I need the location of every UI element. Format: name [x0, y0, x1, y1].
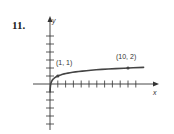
y-axis-label: y — [51, 17, 56, 25]
data-point — [126, 66, 129, 69]
point-label: (10, 2) — [116, 53, 136, 61]
curve-line — [50, 67, 144, 92]
chart: (1, 1)(10, 2) y x — [0, 0, 174, 134]
axes — [33, 20, 156, 130]
data-point — [56, 74, 59, 77]
annotations: (1, 1)(10, 2) — [56, 53, 136, 78]
x-axis-arrow-icon — [153, 82, 159, 87]
point-label: (1, 1) — [56, 59, 72, 67]
x-axis-label: x — [152, 89, 157, 96]
